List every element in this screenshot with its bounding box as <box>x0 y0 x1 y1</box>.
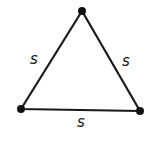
triangle-diagram: s s s <box>0 0 149 141</box>
vertex-top <box>78 7 86 15</box>
vertex-bottom-right <box>136 107 144 115</box>
side-label-right: s <box>122 52 130 70</box>
side-label-left: s <box>30 50 38 68</box>
side-label-bottom: s <box>77 113 85 131</box>
vertex-bottom-left <box>17 105 25 113</box>
